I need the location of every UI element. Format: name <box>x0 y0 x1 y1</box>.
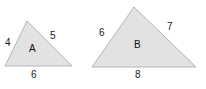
triangle-a-name-label: A <box>29 44 36 54</box>
triangle-a-right-side-length: 5 <box>50 31 56 41</box>
triangle-b-left-side-length: 6 <box>99 28 105 38</box>
triangle-a-base-length: 6 <box>31 70 37 80</box>
triangle-a-left-side-length: 4 <box>5 38 11 48</box>
triangle-b-shape <box>92 7 196 67</box>
triangle-b-name-label: B <box>134 40 141 50</box>
triangle-a-shape <box>5 21 72 66</box>
triangle-b-base-length: 8 <box>135 70 141 80</box>
triangle-b-right-side-length: 7 <box>167 22 173 32</box>
triangle-comparison-figure: 4 5 6 A 6 7 8 B <box>0 0 206 89</box>
